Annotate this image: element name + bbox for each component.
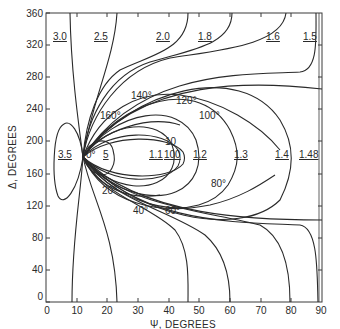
curve-n-3-0 (70, 13, 83, 302)
x-axis-title: Ψ, DEGREES (150, 319, 216, 329)
label-angle-0: 0° (86, 149, 96, 160)
delta-psi-chart: 0 40 80 120 160 200 240 280 320 360 Δ, D… (0, 0, 340, 329)
label-angle-160: 160° (100, 110, 121, 121)
label-n-3-0: 3.0 (53, 31, 67, 42)
label-angle-120: 120° (176, 95, 197, 106)
label-angle-40: 40° (133, 205, 148, 216)
y-tick-label: 240 (26, 103, 43, 114)
label-n-1-1: 1.1 (149, 149, 163, 160)
label-n-10: 10 (165, 136, 177, 147)
y-axis-title: Δ, DEGREES (7, 125, 18, 189)
x-tick-label: 20 (101, 305, 113, 316)
label-n-1-5: 1.5 (303, 31, 317, 42)
label-angle-80: 80° (211, 178, 226, 189)
label-n-5: 5 (103, 149, 109, 160)
x-tick-label: 90 (315, 305, 327, 316)
x-tick-label: 70 (255, 305, 267, 316)
x-tick-label: 80 (285, 305, 297, 316)
label-n-1-6: 1.6 (266, 31, 280, 42)
label-angle-60: 60° (165, 205, 180, 216)
label-n-2-0: 2.0 (156, 31, 170, 42)
y-tick-label: 120 (26, 200, 43, 211)
x-tick-label: 10 (71, 305, 83, 316)
y-tick-label: 320 (26, 39, 43, 50)
label-n-1-8: 1.8 (198, 31, 212, 42)
x-tick-label: 0 (44, 305, 50, 316)
y-tick-label: 200 (26, 135, 43, 146)
y-tick-label: 360 (26, 8, 43, 19)
label-angle-100: 100° (199, 110, 220, 121)
x-tick-label: 50 (193, 305, 205, 316)
label-angle-140: 140° (131, 90, 152, 101)
y-tick-label: 160 (26, 168, 43, 179)
y-tick-label: 280 (26, 71, 43, 82)
y-tick-label: 80 (32, 232, 44, 243)
label-n-1-48: 1.48 (299, 149, 319, 160)
x-tick-label: 30 (132, 305, 144, 316)
label-n-1-4: 1.4 (275, 149, 289, 160)
label-angle-20: 20° (102, 185, 117, 196)
x-tick-label: 40 (163, 305, 175, 316)
x-tick-label: 60 (224, 305, 236, 316)
label-n-100: 100 (164, 149, 181, 160)
label-n-1-3: 1.3 (234, 149, 248, 160)
y-tick-label: 0 (37, 291, 43, 302)
label-n-2-5: 2.5 (94, 31, 108, 42)
label-n-3-5: 3.5 (58, 149, 72, 160)
curve-n-3-5 (54, 123, 83, 200)
y-tick-label: 40 (32, 264, 44, 275)
label-n-1-2: 1.2 (193, 149, 207, 160)
